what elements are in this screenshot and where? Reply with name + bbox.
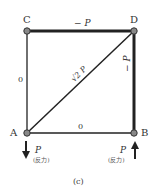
- node-B: [131, 130, 137, 136]
- node-C: [24, 28, 30, 34]
- reaction-B-note: (反力): [108, 157, 125, 163]
- reaction-B-force: P: [120, 146, 126, 155]
- force-label-CA: 0: [18, 76, 23, 84]
- node-label-B: B: [141, 128, 148, 138]
- node-label-D: D: [130, 15, 138, 25]
- reaction-arrow-up-icon: [131, 141, 139, 159]
- force-label-AB: 0: [78, 123, 83, 131]
- node-label-C: C: [23, 15, 31, 25]
- force-label-CD: − P: [74, 19, 90, 28]
- force-label-DB: − P: [123, 56, 132, 72]
- reaction-A-force: P: [35, 146, 41, 155]
- node-label-A: A: [10, 128, 17, 138]
- figure-caption: (c): [73, 178, 84, 186]
- node-D: [131, 28, 137, 34]
- node-A: [24, 130, 30, 136]
- truss-diagram: [0, 0, 157, 196]
- reaction-A-note: (反力): [33, 157, 50, 163]
- reaction-arrow-down-icon: [22, 141, 30, 159]
- member-AD: [27, 31, 134, 133]
